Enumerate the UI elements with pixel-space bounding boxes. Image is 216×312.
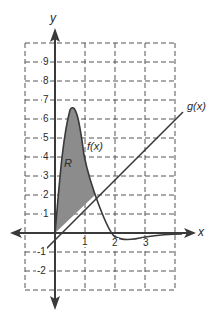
y-tick-8: 8: [42, 76, 50, 86]
y-tick-7: 7: [42, 95, 50, 105]
y-tick-neg2: -2: [36, 266, 47, 276]
y-tick-2: 2: [42, 190, 50, 200]
y-tick-4: 4: [42, 152, 50, 162]
y-tick-neg1: -1: [36, 247, 47, 257]
x-axis: [10, 228, 196, 238]
region-r-label: R: [64, 158, 72, 169]
y-axis-label: y: [50, 12, 56, 24]
f-label: f(x): [87, 141, 103, 152]
x-tick-3: 3: [142, 238, 150, 248]
x-axis-label: x: [198, 226, 204, 238]
graph-figure: y x f(x) g(x) R 1 2 3 9 8 7 6 5 4 3 2 1 …: [0, 0, 216, 312]
x-tick-1: 1: [81, 237, 89, 247]
g-label: g(x): [187, 101, 206, 112]
x-tick-2: 2: [111, 238, 119, 248]
y-tick-9: 9: [42, 57, 50, 67]
y-tick-6: 6: [42, 114, 50, 124]
y-tick-1: 1: [42, 209, 50, 219]
y-axis: [50, 28, 60, 310]
y-tick-5: 5: [42, 133, 50, 143]
graph-svg: [0, 0, 216, 312]
y-tick-3: 3: [42, 171, 50, 181]
